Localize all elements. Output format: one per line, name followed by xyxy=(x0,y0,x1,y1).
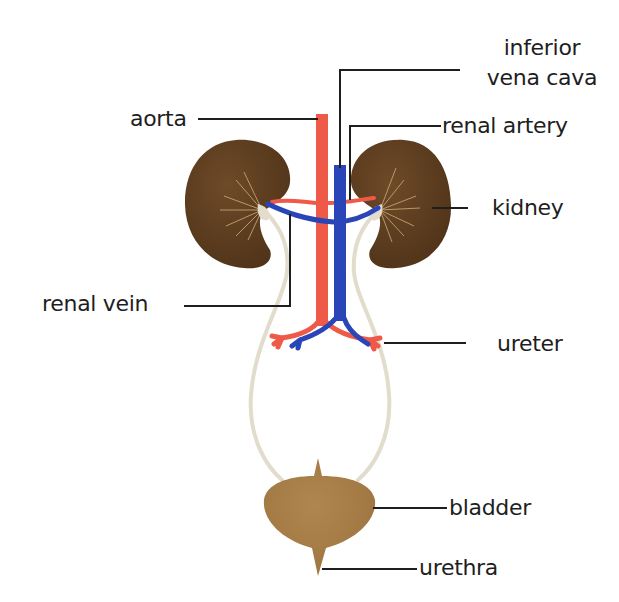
label-renal-vein: renal vein xyxy=(42,293,148,315)
label-urethra: urethra xyxy=(419,557,498,579)
label-ivc-line1: inferior xyxy=(478,33,606,63)
right-kidney xyxy=(351,140,451,268)
label-inferior-vena-cava: inferior vena cava xyxy=(478,33,606,93)
label-bladder: bladder xyxy=(449,497,531,519)
bladder-organ xyxy=(264,458,375,576)
label-ivc-line2: vena cava xyxy=(478,63,606,93)
label-renal-artery: renal artery xyxy=(442,115,568,137)
label-ureter: ureter xyxy=(497,333,562,355)
left-kidney xyxy=(185,140,290,268)
label-aorta: aorta xyxy=(130,108,187,130)
label-kidney: kidney xyxy=(492,197,564,219)
urinary-system-diagram: inferior vena cava aorta renal artery ki… xyxy=(0,0,619,602)
